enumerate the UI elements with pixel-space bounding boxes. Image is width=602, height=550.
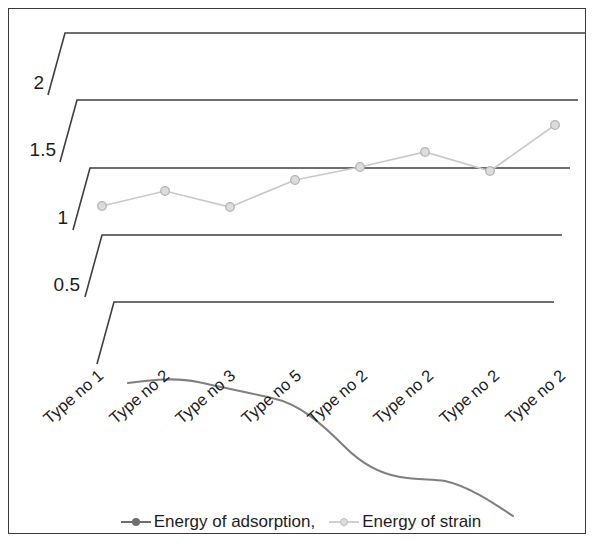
chart-legend: Energy of adsorption, Energy of strain — [0, 512, 602, 532]
y-tick-label-1.5: 1.5 — [6, 139, 56, 161]
y-tick-label-0.5: 0.5 — [6, 274, 80, 296]
strain-point-6 — [486, 167, 495, 176]
gridline-0.5 — [85, 235, 562, 297]
legend-marker-adsorption — [121, 516, 151, 528]
y-tick-label-2: 2 — [6, 72, 44, 94]
chart-plot-area — [0, 0, 602, 550]
legend-item-strain[interactable]: Energy of strain — [329, 512, 481, 532]
legend-item-adsorption[interactable]: Energy of adsorption, — [121, 512, 316, 532]
strain-point-1 — [161, 187, 170, 196]
strain-point-5 — [421, 148, 430, 157]
strain-markers — [98, 121, 560, 212]
strain-point-7 — [551, 121, 560, 130]
series-energy-of-strain — [98, 121, 560, 212]
gridline-1 — [73, 168, 570, 230]
strain-line — [102, 125, 555, 207]
legend-label-adsorption: Energy of adsorption, — [154, 512, 316, 532]
gridlines-group — [48, 33, 586, 364]
strain-point-0 — [98, 202, 107, 211]
gridline-2 — [48, 33, 586, 95]
y-tick-label-1: 1 — [6, 207, 68, 229]
legend-label-strain: Energy of strain — [362, 512, 481, 532]
legend-marker-strain — [329, 516, 359, 528]
strain-point-4 — [356, 163, 365, 172]
gridline-0 — [97, 302, 554, 364]
strain-point-2 — [226, 203, 235, 212]
gridline-1.5 — [60, 100, 578, 162]
strain-point-3 — [291, 176, 300, 185]
